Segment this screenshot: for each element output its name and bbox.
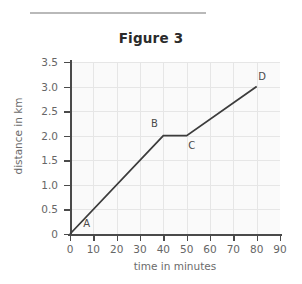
header-divider <box>30 12 206 14</box>
point-label-b: B <box>151 119 158 129</box>
chart-plot-container: 00.51.01.52.02.53.03.5 01020304050607080… <box>0 52 302 284</box>
chart-title: Figure 3 <box>0 30 302 46</box>
y-axis-title: distance in km <box>12 76 24 196</box>
x-axis-title: time in minutes <box>70 260 280 272</box>
series-polyline <box>70 87 257 234</box>
data-line-series <box>0 52 302 284</box>
point-label-a: A <box>83 219 90 229</box>
point-label-c: C <box>188 141 195 151</box>
point-label-d: D <box>258 72 266 82</box>
